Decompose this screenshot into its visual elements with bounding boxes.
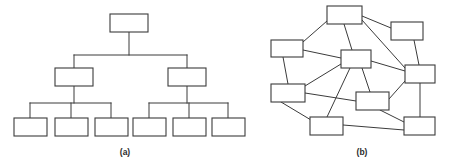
panel-a-group	[14, 14, 245, 136]
mesh-edge	[362, 68, 370, 92]
caption-group: (a)(b)	[120, 147, 368, 157]
mesh-edge	[305, 93, 356, 101]
topology-figure-canvas: (a)(b)	[0, 0, 449, 165]
tree-node-branch	[55, 68, 93, 86]
caption-a: (a)	[120, 147, 131, 157]
mesh-node	[404, 117, 435, 135]
mesh-node	[271, 84, 305, 102]
mesh-edge	[362, 16, 391, 28]
mesh-node	[391, 22, 423, 40]
mesh-edge	[380, 110, 404, 122]
mesh-edge	[344, 24, 352, 50]
tree-node-root	[110, 14, 148, 32]
panel-b-group	[271, 6, 435, 135]
tree-node-leaf	[14, 118, 47, 136]
mesh-edge	[305, 64, 341, 86]
caption-b: (b)	[357, 147, 368, 157]
mesh-node	[356, 92, 389, 110]
mesh-node	[271, 40, 303, 57]
mesh-edge	[343, 125, 404, 130]
mesh-edge	[389, 81, 405, 99]
mesh-node	[341, 50, 371, 68]
tree-node-leaf	[55, 118, 88, 136]
tree-node-group	[14, 14, 245, 136]
figure-root: (a)(b)	[0, 0, 449, 165]
mesh-edge	[303, 21, 327, 42]
mesh-node-group	[271, 6, 435, 135]
mesh-edge	[283, 57, 288, 84]
tree-node-branch	[168, 68, 206, 86]
mesh-edge	[281, 102, 311, 120]
mesh-node	[405, 65, 435, 83]
tree-node-leaf	[173, 118, 206, 136]
mesh-edge	[414, 40, 419, 65]
mesh-edge	[303, 50, 341, 58]
mesh-node	[327, 6, 362, 24]
mesh-edge	[327, 68, 350, 117]
mesh-node	[310, 117, 343, 135]
tree-node-leaf	[212, 118, 245, 136]
tree-node-leaf	[133, 118, 166, 136]
tree-node-leaf	[95, 118, 128, 136]
